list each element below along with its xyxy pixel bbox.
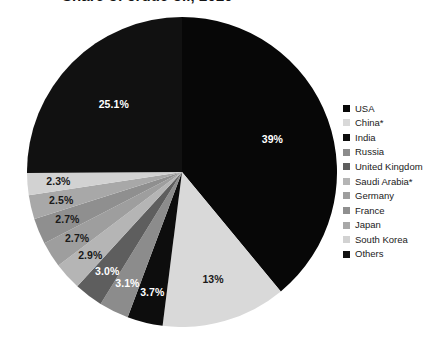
pie-chart-figure: Share of crude oil, 2020 39%13%3.7%3.1%3… — [0, 0, 436, 338]
pie-slice[interactable] — [27, 17, 182, 173]
legend-item[interactable]: Saudi Arabia* — [343, 174, 436, 189]
legend-swatch-icon — [343, 251, 350, 258]
legend-swatch-icon — [343, 192, 350, 199]
legend-swatch-icon — [343, 207, 350, 214]
legend-swatch-icon — [343, 236, 350, 243]
legend-item[interactable]: USA — [343, 101, 436, 116]
legend-item-label: South Korea — [355, 235, 408, 245]
pie-slice-label: 2.5% — [49, 194, 74, 206]
legend-item-label: India — [355, 133, 376, 143]
pie-plot-area: 39%13%3.7%3.1%3.0%2.9%2.7%2.7%2.5%2.3%25… — [27, 17, 337, 327]
legend-swatch-icon — [343, 134, 350, 141]
pie-slice-label: 2.7% — [55, 213, 80, 225]
legend-item[interactable]: China* — [343, 116, 436, 131]
legend-item[interactable]: Russia — [343, 145, 436, 160]
legend-item[interactable]: South Korea — [343, 232, 436, 247]
pie-slice-label: 25.1% — [99, 98, 130, 110]
legend-item-label: USA — [355, 104, 375, 114]
pie-slice-group — [27, 17, 337, 327]
legend-item-label: Others — [355, 249, 384, 259]
pie-slice-label: 2.3% — [46, 175, 71, 187]
legend-swatch-icon — [343, 119, 350, 126]
legend-item-label: Japan — [355, 220, 381, 230]
chart-legend: USAChina*IndiaRussiaUnited KingdomSaudi … — [343, 101, 436, 262]
legend-item[interactable]: Germany — [343, 189, 436, 204]
legend-swatch-icon — [343, 163, 350, 170]
legend-item-label: Germany — [355, 191, 394, 201]
pie-slice-label: 3.7% — [140, 286, 165, 298]
legend-item[interactable]: Japan — [343, 218, 436, 233]
legend-item-label: Russia — [355, 147, 384, 157]
legend-item[interactable]: Others — [343, 247, 436, 262]
legend-item[interactable]: United Kingdom — [343, 159, 436, 174]
legend-item-label: China* — [355, 118, 384, 128]
legend-item[interactable]: France — [343, 203, 436, 218]
chart-title: Share of crude oil, 2020 — [62, 0, 233, 4]
pie-slice-label: 3.0% — [95, 265, 120, 277]
pie-slice-label: 13% — [202, 273, 224, 285]
pie-slice-label: 2.7% — [65, 232, 90, 244]
legend-item-label: France — [355, 206, 385, 216]
legend-swatch-icon — [343, 105, 350, 112]
legend-swatch-icon — [343, 222, 350, 229]
legend-item[interactable]: India — [343, 130, 436, 145]
legend-item-label: United Kingdom — [355, 162, 423, 172]
pie-svg: 39%13%3.7%3.1%3.0%2.9%2.7%2.7%2.5%2.3%25… — [27, 17, 337, 327]
legend-swatch-icon — [343, 149, 350, 156]
pie-slice-label: 39% — [262, 133, 284, 145]
legend-swatch-icon — [343, 178, 350, 185]
pie-slice-label: 2.9% — [78, 249, 103, 261]
pie-slice-label: 3.1% — [115, 277, 140, 289]
legend-item-label: Saudi Arabia* — [355, 177, 413, 187]
